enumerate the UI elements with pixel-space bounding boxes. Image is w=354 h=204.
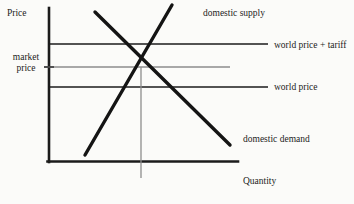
y-axis-label: Price — [7, 8, 27, 19]
market-price-label-line-2: price — [6, 63, 46, 74]
world-price-label: world price — [274, 82, 318, 93]
price-level-lines-group — [44, 44, 268, 87]
diagram-canvas — [0, 0, 354, 204]
market-price-label-line-1: market — [6, 52, 46, 63]
x-axis-label: Quantity — [243, 176, 276, 187]
market-price-axis-label: market price — [6, 52, 46, 74]
curves-group — [85, 5, 230, 155]
domestic-supply-curve — [85, 5, 172, 155]
domestic-demand-label: domestic demand — [243, 134, 310, 145]
domestic-demand-curve — [95, 12, 230, 145]
domestic-supply-label: domestic supply — [203, 8, 265, 19]
economics-supply-demand-tariff-diagram: Price market price domestic supply world… — [0, 0, 354, 204]
axes-group — [48, 8, 239, 162]
world-price-plus-tariff-label: world price + tariff — [274, 40, 346, 51]
